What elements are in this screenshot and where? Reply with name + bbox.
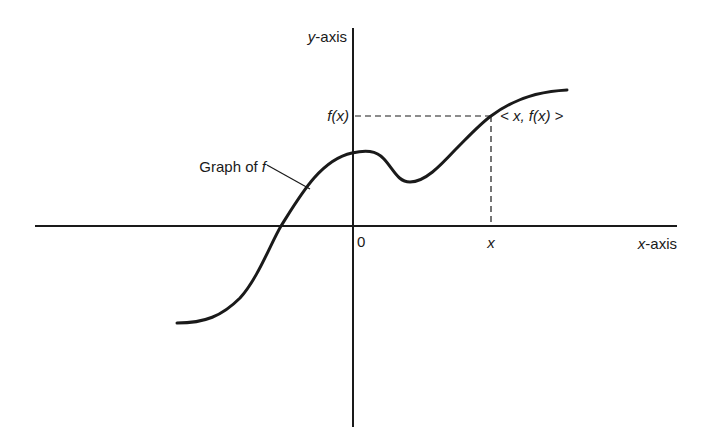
y-axis-label: y-axis <box>307 28 347 45</box>
fx-tick-label: f(x) <box>327 107 349 124</box>
function-curve <box>177 90 567 323</box>
x-tick-label: x <box>486 234 495 251</box>
point-label: < x, f(x) > <box>500 107 564 124</box>
origin-label: 0 <box>357 233 365 250</box>
curve-label: Graph of f <box>199 158 268 175</box>
x-axis-label: x-axis <box>637 235 677 252</box>
function-graph-diagram: y-axis x-axis 0 f(x) x < x, f(x) > Graph… <box>0 0 706 444</box>
curve-label-leader-line <box>267 165 310 189</box>
